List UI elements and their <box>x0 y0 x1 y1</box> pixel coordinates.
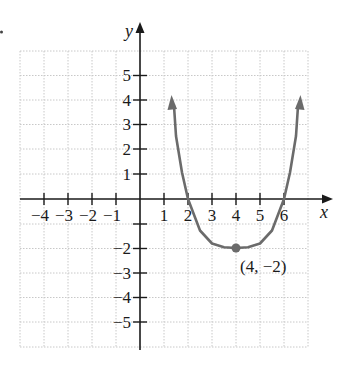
vertex-label: (4, −2) <box>240 257 286 276</box>
x-tick-label: 1 <box>160 206 169 225</box>
y-tick-label: 3 <box>123 115 132 134</box>
x-tick-label: −1 <box>103 206 121 225</box>
x-tick-label: 4 <box>232 206 241 225</box>
x-axis-label: x <box>319 202 328 222</box>
x-tick-label: 3 <box>208 206 217 225</box>
y-tick-label: 1 <box>123 165 132 184</box>
curve-arrow-left-icon <box>168 95 178 110</box>
curve-arrow-right-icon <box>295 95 305 110</box>
y-tick-label: 4 <box>123 91 132 110</box>
y-tick-label: −2 <box>113 239 131 258</box>
graph: −4 −3 −2 −1 1 2 3 4 5 6 5 4 3 2 1 −2 −3 … <box>0 0 347 367</box>
x-tick-label: −4 <box>31 206 50 225</box>
y-tick-label: −5 <box>113 313 131 332</box>
vertex-point <box>232 244 241 253</box>
axes <box>20 28 326 350</box>
item-marker <box>0 31 3 34</box>
y-axis-arrow-icon <box>136 22 145 33</box>
y-axis-label: y <box>123 21 133 41</box>
x-tick-label: 5 <box>256 206 265 225</box>
y-tick-label: −3 <box>113 264 131 283</box>
x-tick-label: −3 <box>55 206 73 225</box>
x-tick-label: −2 <box>79 206 97 225</box>
y-tick-label: 2 <box>123 140 132 159</box>
y-tick-label: 5 <box>123 66 132 85</box>
y-tick-label: −4 <box>113 288 132 307</box>
x-tick-labels: −4 −3 −2 −1 1 2 3 4 5 6 <box>31 206 288 225</box>
